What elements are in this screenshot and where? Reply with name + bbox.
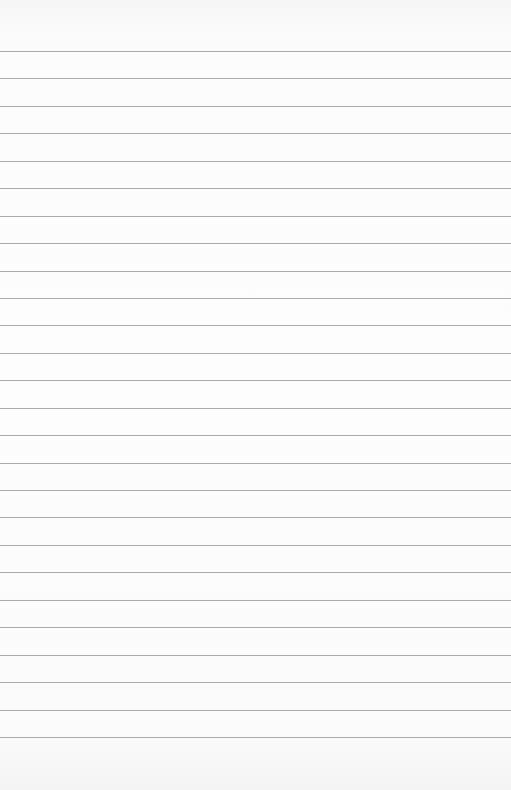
ruled-line (0, 435, 511, 436)
ruled-line (0, 627, 511, 628)
ruled-line (0, 380, 511, 381)
ruled-line (0, 51, 511, 52)
ruled-line (0, 682, 511, 683)
lined-paper-sheet (0, 0, 511, 790)
ruled-line (0, 737, 511, 738)
ruled-line (0, 161, 511, 162)
ruled-line (0, 710, 511, 711)
ruled-line (0, 133, 511, 134)
ruled-line (0, 572, 511, 573)
ruled-line (0, 298, 511, 299)
ruled-line (0, 271, 511, 272)
ruled-line (0, 188, 511, 189)
ruled-line (0, 517, 511, 518)
ruled-line (0, 408, 511, 409)
ruled-line (0, 78, 511, 79)
ruled-line (0, 325, 511, 326)
ruled-line (0, 463, 511, 464)
ruled-line (0, 655, 511, 656)
ruled-line (0, 545, 511, 546)
ruled-line (0, 600, 511, 601)
ruled-line (0, 353, 511, 354)
ruled-line (0, 243, 511, 244)
ruled-line (0, 216, 511, 217)
ruled-line (0, 106, 511, 107)
ruled-line (0, 490, 511, 491)
